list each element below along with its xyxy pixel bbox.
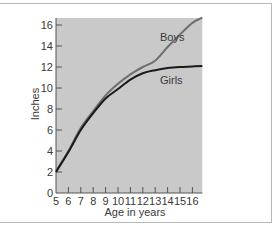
x-tick-label: 7: [78, 195, 84, 207]
series-label-boys: Boys: [160, 31, 185, 43]
y-tick-label: 14: [41, 40, 53, 52]
plot-area: [56, 18, 202, 193]
y-tick-label: 12: [41, 61, 53, 73]
x-tick-label: 15: [174, 195, 186, 207]
y-tick-label: 10: [41, 82, 53, 94]
x-tick-label: 8: [90, 195, 96, 207]
x-tick-label: 16: [186, 195, 198, 207]
x-tick-label: 6: [65, 195, 71, 207]
growth-chart: 02468101214165678910111213141516 Boys Gi…: [0, 0, 277, 228]
series-label-girls: Girls: [160, 74, 183, 86]
y-tick-label: 6: [47, 124, 53, 136]
y-tick-label: 8: [47, 103, 53, 115]
x-tick-label: 5: [53, 195, 59, 207]
y-axis-title: Inches: [29, 87, 41, 120]
y-tick-label: 2: [47, 166, 53, 178]
y-tick-label: 4: [47, 145, 53, 157]
y-tick-label: 16: [41, 19, 53, 31]
x-axis-title: Age in years: [104, 206, 166, 218]
